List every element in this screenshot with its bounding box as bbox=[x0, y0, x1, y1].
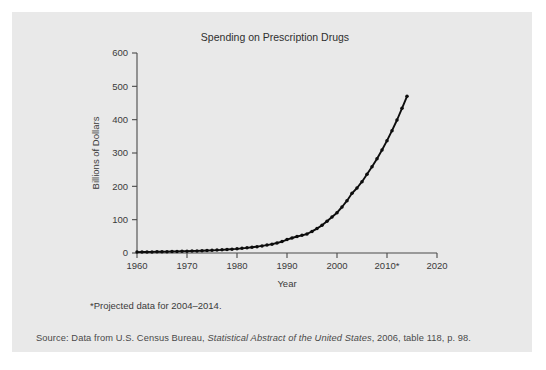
data-series-points bbox=[135, 95, 409, 254]
footnote-projected-data: *Projected data for 2004–2014. bbox=[90, 300, 222, 311]
data-point bbox=[355, 186, 359, 190]
data-point bbox=[160, 250, 164, 254]
data-point bbox=[250, 246, 254, 250]
data-point bbox=[395, 118, 399, 122]
data-point bbox=[245, 246, 249, 250]
data-point bbox=[315, 227, 319, 231]
data-point bbox=[180, 250, 184, 254]
figure-panel: Spending on Prescription Drugs 010020030… bbox=[12, 12, 532, 352]
data-point bbox=[265, 243, 269, 247]
data-point bbox=[140, 250, 144, 254]
x-tick-label: 2000 bbox=[326, 260, 347, 271]
data-point bbox=[220, 248, 224, 252]
data-point bbox=[230, 247, 234, 251]
data-point bbox=[155, 250, 159, 254]
x-tick-label: 1980 bbox=[226, 260, 247, 271]
y-axis-title: Billions of Dollars bbox=[90, 116, 101, 189]
data-point bbox=[385, 139, 389, 143]
data-point bbox=[340, 205, 344, 209]
data-point bbox=[330, 215, 334, 219]
data-point bbox=[310, 230, 314, 234]
data-point bbox=[305, 232, 309, 236]
x-axis-ticks: 196019701980199020002010*2020 bbox=[126, 253, 447, 271]
data-point bbox=[390, 129, 394, 133]
data-point bbox=[165, 250, 169, 254]
data-point bbox=[375, 157, 379, 161]
data-point bbox=[290, 236, 294, 240]
data-point bbox=[200, 249, 204, 253]
data-point bbox=[185, 249, 189, 253]
data-point bbox=[215, 248, 219, 252]
source-prefix: Source: Data from U.S. Census Bureau, bbox=[36, 333, 207, 343]
y-tick-label: 100 bbox=[112, 214, 128, 225]
y-tick-label: 300 bbox=[112, 147, 128, 158]
x-tick-label: 1960 bbox=[126, 260, 147, 271]
data-point bbox=[325, 220, 329, 224]
data-point bbox=[260, 244, 264, 248]
y-tick-label: 200 bbox=[112, 181, 128, 192]
x-axis-title: Year bbox=[277, 278, 296, 289]
data-point bbox=[175, 250, 179, 254]
x-tick-label: 2010* bbox=[375, 260, 400, 271]
y-tick-label: 400 bbox=[112, 114, 128, 125]
data-point bbox=[275, 241, 279, 245]
data-point bbox=[170, 250, 174, 254]
prescription-drug-spending-chart: Spending on Prescription Drugs 010020030… bbox=[12, 12, 532, 302]
source-suffix: , 2006, table 118, p. 98. bbox=[372, 333, 471, 343]
data-point bbox=[295, 235, 299, 239]
y-tick-label: 600 bbox=[112, 47, 128, 58]
data-point bbox=[345, 199, 349, 203]
data-point bbox=[150, 250, 154, 254]
data-point bbox=[370, 165, 374, 169]
x-tick-label: 1970 bbox=[176, 260, 197, 271]
data-point bbox=[205, 249, 209, 253]
data-point bbox=[210, 249, 214, 253]
data-point bbox=[135, 250, 139, 254]
data-point bbox=[145, 250, 149, 254]
data-point bbox=[235, 247, 239, 251]
data-point bbox=[225, 248, 229, 252]
data-point bbox=[405, 95, 409, 99]
data-point bbox=[320, 224, 324, 228]
data-point bbox=[400, 107, 404, 111]
data-point bbox=[365, 173, 369, 177]
data-point bbox=[360, 180, 364, 184]
y-tick-label: 0 bbox=[123, 247, 128, 258]
data-point bbox=[280, 240, 284, 244]
data-point bbox=[335, 211, 339, 215]
data-point bbox=[285, 238, 289, 242]
y-axis-ticks: 0100200300400500600 bbox=[112, 47, 137, 258]
data-point bbox=[240, 247, 244, 251]
data-point bbox=[195, 249, 199, 253]
x-tick-label: 1990 bbox=[276, 260, 297, 271]
chart-title: Spending on Prescription Drugs bbox=[201, 31, 349, 43]
data-point bbox=[190, 249, 194, 253]
data-point bbox=[270, 242, 274, 246]
data-point bbox=[380, 148, 384, 152]
source-citation: Source: Data from U.S. Census Bureau, St… bbox=[36, 333, 471, 343]
data-point bbox=[350, 192, 354, 196]
y-tick-label: 500 bbox=[112, 81, 128, 92]
source-publication-title: Statistical Abstract of the United State… bbox=[207, 333, 371, 343]
data-point bbox=[300, 234, 304, 238]
data-point bbox=[255, 245, 259, 249]
x-tick-label: 2020 bbox=[426, 260, 447, 271]
